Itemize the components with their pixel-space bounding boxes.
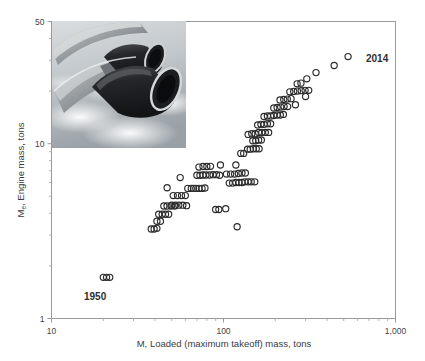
y-axis-title-rest: , Engine mass, tons xyxy=(15,122,26,206)
data-point xyxy=(233,162,239,168)
data-point xyxy=(345,53,351,59)
y-tick-label-50: 50 xyxy=(35,17,45,27)
x-tick-label-1000: 1,000 xyxy=(385,326,407,336)
chart-figure: 11050 101001,000 1950 2014 M, Loaded (ma… xyxy=(0,0,425,361)
data-point xyxy=(164,185,170,191)
x-axis-title: M, Loaded (maximum takeoff) mass, tons xyxy=(137,338,312,349)
data-point xyxy=(302,93,308,99)
data-point xyxy=(183,203,189,209)
y-tick-label-10: 10 xyxy=(35,139,45,149)
data-point xyxy=(292,102,298,108)
annotation-2014: 2014 xyxy=(366,53,389,64)
x-tick-label-10: 10 xyxy=(47,326,57,336)
data-point xyxy=(177,174,183,180)
x-axis-tick-labels: 101001,000 xyxy=(47,326,407,336)
data-point xyxy=(313,70,319,76)
data-point xyxy=(217,162,223,168)
y-axis-ticks xyxy=(48,22,52,319)
x-tick-label-100: 100 xyxy=(216,326,230,336)
data-point xyxy=(298,80,304,86)
y-axis-title-main: M xyxy=(15,209,26,217)
data-point xyxy=(223,206,229,212)
data-point xyxy=(304,76,310,82)
data-point xyxy=(331,62,337,68)
y-axis-title: Me, Engine mass, tons xyxy=(15,122,27,217)
annotation-1950: 1950 xyxy=(84,291,107,302)
data-point xyxy=(234,224,240,230)
data-point xyxy=(288,96,294,102)
y-tick-label-1: 1 xyxy=(40,314,45,324)
svg-text:Me, Engine mass, tons: Me, Engine mass, tons xyxy=(15,122,27,217)
aircraft-engines-photo xyxy=(52,21,186,148)
data-point xyxy=(182,192,188,198)
x-axis-ticks xyxy=(52,319,396,323)
y-axis-tick-labels: 11050 xyxy=(35,17,45,324)
